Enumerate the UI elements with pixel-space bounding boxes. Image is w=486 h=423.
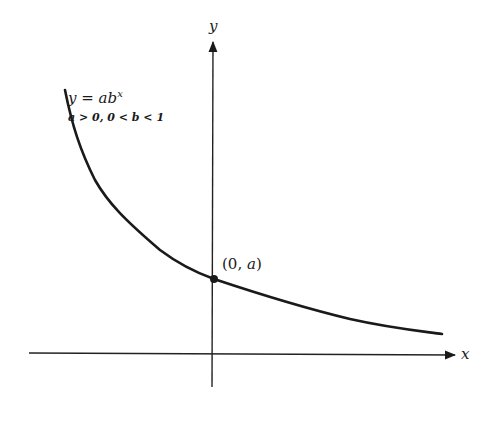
exponential-curve <box>65 90 442 334</box>
x-axis <box>29 353 455 355</box>
x-axis-label: x <box>461 345 469 363</box>
y-axis-label: y <box>209 17 217 35</box>
graph-canvas <box>0 0 486 423</box>
conditions-label: a > 0, 0 < b < 1 <box>68 111 164 124</box>
y-axis <box>212 42 213 387</box>
y-intercept-point <box>210 275 218 283</box>
intercept-label: (0, a) <box>222 255 262 273</box>
equation-label: y = abx <box>68 88 123 107</box>
